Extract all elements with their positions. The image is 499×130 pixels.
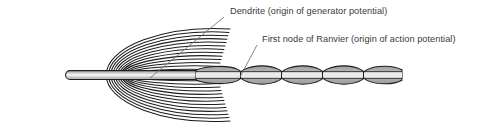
- neuron-diagram-canvas: Dendrite (origin of generator potential)…: [0, 0, 499, 130]
- annotation-label-first-node-of-ranvier: First node of Ranvier (origin of action …: [262, 34, 456, 44]
- annotation-label-dendrite: Dendrite (origin of generator potential): [230, 6, 387, 16]
- neuron-diagram-figure: Dendrite (origin of generator potential)…: [0, 0, 499, 130]
- axon-lumen: [196, 72, 402, 77]
- figure-background: [0, 0, 499, 130]
